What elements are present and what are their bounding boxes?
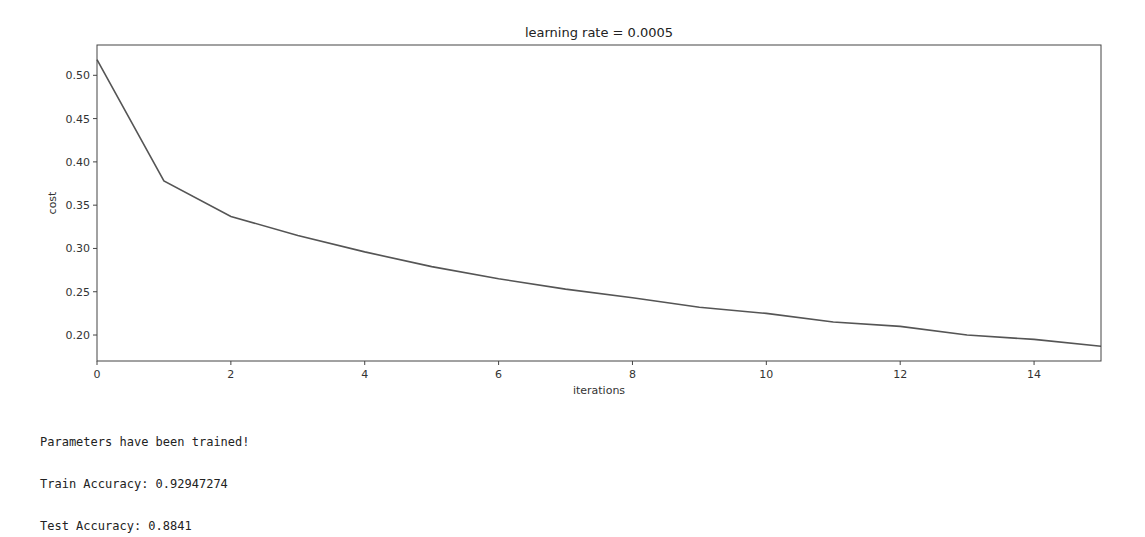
y-tick-label: 0.30 [66,242,91,255]
x-tick-label: 6 [495,368,502,381]
x-tick-label: 2 [227,368,234,381]
x-tick-label: 14 [1027,368,1041,381]
y-tick-label: 0.35 [66,199,91,212]
y-axis-ticks: 0.200.250.300.350.400.450.50 [66,69,98,342]
output-line-status: Parameters have been trained! [40,435,250,449]
plot-area-frame [97,45,1101,361]
output-line-train-accuracy: Train Accuracy: 0.92947274 [40,477,250,491]
cost-line-chart: learning rate = 0.0005 0.200.250.300.350… [0,0,1145,400]
cost-series-line [97,60,1101,347]
y-tick-label: 0.40 [66,156,91,169]
y-axis-label: cost [46,191,59,215]
x-axis-ticks: 02468101214 [94,361,1042,381]
x-tick-label: 0 [94,368,101,381]
y-tick-label: 0.50 [66,69,91,82]
x-tick-label: 4 [361,368,368,381]
x-tick-label: 8 [629,368,636,381]
y-tick-label: 0.45 [66,113,91,126]
cell-output: Parameters have been trained! Train Accu… [40,407,250,537]
chart-title: learning rate = 0.0005 [525,25,673,40]
x-tick-label: 10 [759,368,773,381]
x-tick-label: 12 [893,368,907,381]
x-axis-label: iterations [573,384,625,397]
y-tick-label: 0.20 [66,329,91,342]
y-tick-label: 0.25 [66,286,91,299]
output-line-test-accuracy: Test Accuracy: 0.8841 [40,519,250,533]
